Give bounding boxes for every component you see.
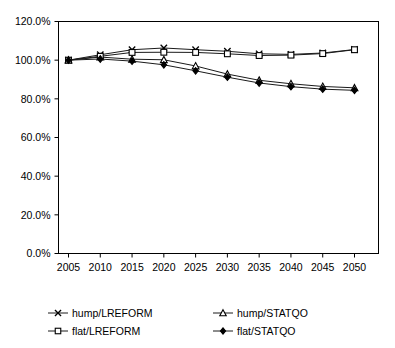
x-tick-label: 2050 xyxy=(343,261,367,273)
legend-label: hump/LREFORM xyxy=(72,307,153,319)
line-chart: 0.0%20.0%40.0%60.0%80.0%100.0%120.0% 200… xyxy=(0,0,395,348)
series-line xyxy=(69,57,355,88)
marker-square xyxy=(352,47,358,53)
series-flat-lreform xyxy=(66,47,358,63)
x-tick-label: 2025 xyxy=(184,261,208,273)
legend-item[interactable]: flat/LREFORM xyxy=(48,325,140,337)
legend-item[interactable]: hump/LREFORM xyxy=(48,307,153,319)
x-tick-label: 2045 xyxy=(311,261,335,273)
y-tick-label: 80.0% xyxy=(21,93,51,105)
marker-square xyxy=(55,328,61,334)
x-tick-label: 2040 xyxy=(279,261,303,273)
chart-legend: hump/LREFORMhump/STATQOflat/LREFORMflat/… xyxy=(48,307,308,337)
x-tick-label: 2005 xyxy=(57,261,81,273)
y-tick-label: 60.0% xyxy=(21,131,51,143)
marker-square xyxy=(224,51,230,57)
series-line xyxy=(69,50,355,60)
y-tick-label: 20.0% xyxy=(21,209,51,221)
series-flat-statqo xyxy=(66,56,357,94)
marker-square xyxy=(320,51,326,57)
plot-frame xyxy=(59,22,379,254)
x-axis: 2005201020152020202520302035204020452050 xyxy=(57,254,367,273)
legend-item[interactable]: hump/STATQO xyxy=(213,307,308,319)
marker-square xyxy=(256,53,262,59)
x-tick-label: 2015 xyxy=(120,261,144,273)
chart-canvas: 0.0%20.0%40.0%60.0%80.0%100.0%120.0% 200… xyxy=(0,0,395,348)
legend-label: flat/STATQO xyxy=(237,325,296,337)
x-tick-label: 2035 xyxy=(247,261,271,273)
y-tick-label: 0.0% xyxy=(27,247,51,259)
marker-square xyxy=(193,50,199,56)
y-tick-label: 40.0% xyxy=(21,170,51,182)
x-tick-label: 2010 xyxy=(89,261,113,273)
y-axis: 0.0%20.0%40.0%60.0%80.0%100.0%120.0% xyxy=(15,15,59,259)
legend-item[interactable]: flat/STATQO xyxy=(213,325,296,337)
legend-label: hump/STATQO xyxy=(237,307,308,319)
marker-square xyxy=(288,52,294,58)
marker-square xyxy=(129,50,135,56)
marker-diamond xyxy=(220,328,225,334)
marker-square xyxy=(161,49,167,55)
y-tick-label: 120.0% xyxy=(15,15,51,27)
series-layer xyxy=(65,45,358,94)
x-tick-label: 2030 xyxy=(216,261,240,273)
legend-label: flat/LREFORM xyxy=(72,325,140,337)
x-tick-label: 2020 xyxy=(152,261,176,273)
y-tick-label: 100.0% xyxy=(15,54,51,66)
